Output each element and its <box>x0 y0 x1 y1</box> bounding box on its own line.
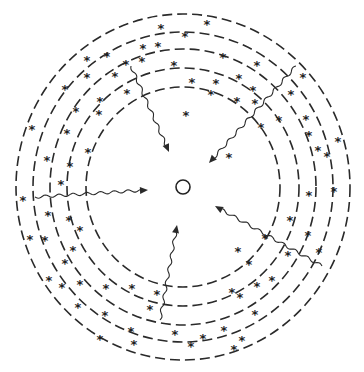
asterisk-particle: * <box>254 58 261 73</box>
asterisk-particle: * <box>254 279 261 294</box>
asterisk-particle: * <box>75 300 82 315</box>
asterisk-particle: * <box>315 143 322 158</box>
asterisk-particle: * <box>285 248 292 263</box>
arrowhead-icon <box>209 155 217 163</box>
asterisk-particle: * <box>250 83 257 98</box>
asterisk-particle: * <box>252 307 259 322</box>
asterisk-particle: * <box>171 58 178 73</box>
arrowhead-icon <box>215 206 224 213</box>
asterisk-particle: * <box>189 75 196 90</box>
arrowhead-icon <box>163 143 169 152</box>
asterisk-particle: * <box>300 70 307 85</box>
asterisk-particle: * <box>288 87 295 102</box>
asterisk-particle: * <box>102 308 109 323</box>
wavy-arrow-2 <box>215 66 296 158</box>
asterisk-particle: * <box>44 153 51 168</box>
asterisk-particle: * <box>226 150 233 165</box>
asterisk-particle: * <box>97 332 104 347</box>
asterisk-particle: * <box>269 273 276 288</box>
asterisk-particle: * <box>73 104 80 119</box>
asterisk-particle: * <box>303 112 310 127</box>
asterisk-particle: * <box>77 223 84 238</box>
asterisk-particle: * <box>237 290 244 305</box>
asterisk-particle: * <box>221 323 228 338</box>
arrowhead-icon <box>172 225 179 234</box>
asterisk-particle: * <box>239 333 246 348</box>
asterisk-particle: * <box>84 53 91 68</box>
diagram-canvas: ****************************************… <box>0 0 364 372</box>
asterisk-particle: * <box>236 71 243 86</box>
asterisk-particle: * <box>59 280 66 295</box>
asterisk-particle: * <box>58 177 65 192</box>
asterisk-particle: * <box>20 193 27 208</box>
asterisk-particle: * <box>183 108 190 123</box>
asterisk-particle: * <box>324 149 331 164</box>
asterisk-particle: * <box>85 145 92 160</box>
asterisk-particle: * <box>124 86 131 101</box>
asterisk-particle: * <box>208 87 215 102</box>
asterisk-particle: * <box>27 232 34 247</box>
asterisk-particle: * <box>276 113 283 128</box>
asterisk-particle: * <box>131 337 138 352</box>
arrowhead-icon <box>140 187 148 194</box>
asterisk-particle: * <box>188 339 195 354</box>
asterisk-particle: * <box>316 245 323 260</box>
asterisk-particle: * <box>62 82 69 97</box>
asterisk-particle: * <box>70 243 77 258</box>
asterisk-particle: * <box>235 244 242 259</box>
asterisk-particle: * <box>246 257 253 272</box>
asterisk-particle: * <box>335 134 342 149</box>
asterisk-particle: * <box>46 273 53 288</box>
asterisk-particle: * <box>84 70 91 85</box>
asterisk-particle: * <box>64 126 71 141</box>
asterisk-particle: * <box>154 287 161 302</box>
asterisk-particle: * <box>104 49 111 64</box>
asterisk-particle: * <box>305 228 312 243</box>
asterisk-particle: * <box>66 213 73 228</box>
asterisk-particle: * <box>158 21 165 36</box>
asterisk-particle: * <box>182 29 189 44</box>
asterisk-particle: * <box>306 188 313 203</box>
asterisk-particle: * <box>129 281 136 296</box>
asterisk-particle: * <box>147 302 154 317</box>
asterisk-particle: * <box>96 107 103 122</box>
asterisk-particle: * <box>287 213 294 228</box>
asterisk-particle: * <box>67 159 74 174</box>
asterisk-particle: * <box>77 277 84 292</box>
asterisk-particle: * <box>331 184 338 199</box>
asterisk-particle: * <box>220 50 227 65</box>
asterisk-particle: * <box>123 57 130 72</box>
asterisk-particle: * <box>234 94 241 109</box>
asterisk-particle: * <box>155 39 162 54</box>
asterisk-particle: * <box>229 285 236 300</box>
center-circle <box>176 180 190 194</box>
asterisk-particle: * <box>29 122 36 137</box>
asterisk-particle: * <box>231 342 238 357</box>
asterisk-particle: * <box>45 208 52 223</box>
asterisk-particle: * <box>62 256 69 271</box>
asterisk-particle: * <box>172 327 179 342</box>
asterisk-particle: * <box>306 128 313 143</box>
asterisk-particle: * <box>42 233 49 248</box>
asterisk-particle: * <box>258 120 265 135</box>
asterisk-particle: * <box>112 69 119 84</box>
asterisk-particle: * <box>103 281 110 296</box>
asterisk-particle: * <box>204 17 211 32</box>
asterisk-particle: * <box>200 331 207 346</box>
wavy-arrow-5 <box>160 233 177 320</box>
asterisk-particle: * <box>139 54 146 69</box>
